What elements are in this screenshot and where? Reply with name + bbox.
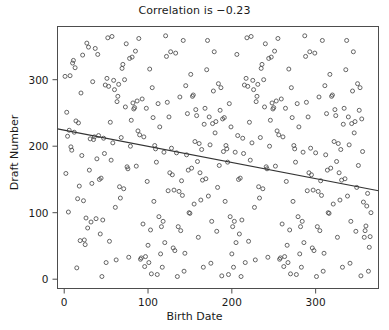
y-tick-label: 100 [28, 207, 48, 219]
x-tick-label: 300 [306, 296, 326, 308]
x-tick-label: 0 [61, 296, 68, 308]
plot-frame [58, 27, 379, 289]
x-tick-label: 200 [222, 296, 242, 308]
x-tick-label: 100 [138, 296, 158, 308]
y-tick-label: 200 [28, 140, 48, 152]
y-tick-label: 300 [28, 74, 48, 86]
y-axis-label: Draft Number [8, 93, 21, 213]
y-tick-label: 0 [42, 273, 49, 285]
plot-canvas: 01002003000100200300 [0, 0, 389, 330]
x-axis-label: Birth Date [0, 310, 389, 323]
scatter-plot-figure: Correlation is −0.23 0100200300010020030… [0, 0, 389, 330]
